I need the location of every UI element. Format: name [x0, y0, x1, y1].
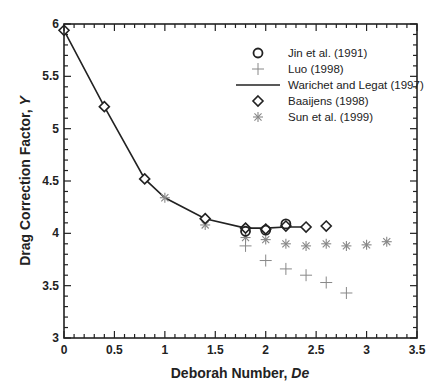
plot-frame: [64, 24, 417, 338]
legend-label: Baaijens (1998): [288, 95, 369, 107]
legend: Jin et al. (1991)Luo (1998)Warichet and …: [236, 47, 424, 123]
x-tick-label: 3.5: [409, 343, 426, 357]
asterisk-marker: [382, 237, 392, 247]
asterisk-marker: [362, 240, 372, 250]
legend-circle-icon: [254, 49, 263, 58]
x-tick-label: 3: [363, 343, 370, 357]
diamond-marker: [301, 222, 311, 232]
y-tick-label: 6: [52, 17, 59, 31]
plus-marker: [260, 255, 272, 267]
legend-asterisk-icon: [253, 112, 263, 122]
asterisk-marker: [281, 239, 291, 249]
diamond-marker: [321, 221, 331, 231]
y-axis-title: Drag Correction Factor, Y: [17, 95, 33, 266]
plus-marker: [340, 287, 352, 299]
diamond-marker: [99, 102, 109, 112]
asterisk-marker: [321, 239, 331, 249]
asterisk-marker: [160, 193, 170, 203]
asterisk-marker: [301, 241, 311, 251]
y-tick-label: 4.5: [42, 174, 59, 188]
asterisk-marker: [261, 235, 271, 245]
x-tick-label: 0.5: [106, 343, 123, 357]
axis-ticks: [64, 24, 417, 338]
drag-correction-chart: 00.511.522.533.5 33.544.555.56 Jin et al…: [0, 0, 442, 389]
x-axis-title: Deborah Number, De: [171, 365, 310, 381]
legend-plus-icon: [252, 63, 264, 75]
y-tick-label: 5.5: [42, 69, 59, 83]
y-tick-label: 3.5: [42, 279, 59, 293]
x-tick-label: 1: [162, 343, 169, 357]
x-tick-label: 1.5: [207, 343, 224, 357]
plus-marker: [300, 269, 312, 281]
series-line: [64, 30, 306, 228]
x-tick-label: 2.5: [308, 343, 325, 357]
legend-label: Sun et al. (1999): [288, 111, 373, 123]
legend-diamond-icon: [253, 96, 263, 106]
chart-canvas: 00.511.522.533.5 33.544.555.56 Jin et al…: [0, 0, 442, 389]
legend-label: Luo (1998): [288, 63, 344, 75]
asterisk-marker: [341, 241, 351, 251]
y-tick-label: 3: [52, 331, 59, 345]
plus-marker: [320, 277, 332, 289]
y-tick-labels: 33.544.555.56: [42, 17, 59, 345]
y-tick-label: 4: [52, 226, 59, 240]
plus-marker: [280, 263, 292, 275]
x-tick-label: 2: [262, 343, 269, 357]
legend-label: Jin et al. (1991): [288, 47, 367, 59]
legend-label: Warichet and Legat (1997): [288, 79, 424, 91]
y-tick-label: 5: [52, 122, 59, 136]
x-tick-labels: 00.511.522.533.5: [61, 343, 426, 357]
x-tick-label: 0: [61, 343, 68, 357]
